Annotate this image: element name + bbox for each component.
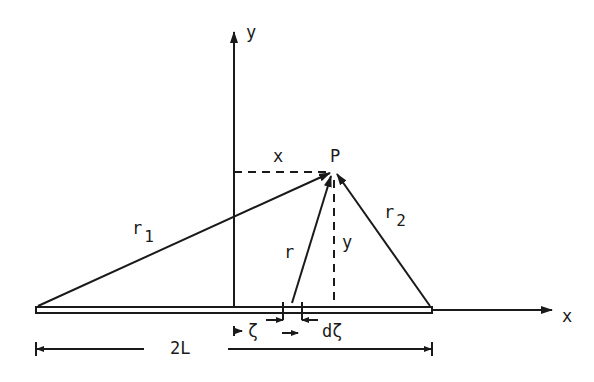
x-axis-label: x bbox=[562, 308, 572, 325]
x-coordinate-label: x bbox=[273, 148, 283, 165]
r1-vector bbox=[38, 173, 330, 306]
r2-label: r2 bbox=[384, 204, 406, 221]
zeta-label: ζ bbox=[248, 323, 258, 340]
r2-subscript: 2 bbox=[396, 211, 406, 230]
r1-label: r1 bbox=[132, 220, 154, 237]
r-vector bbox=[292, 176, 331, 303]
r1-base: r bbox=[132, 218, 142, 238]
r-label: r bbox=[284, 244, 294, 261]
line-source-rod bbox=[36, 307, 432, 313]
r2-base: r bbox=[384, 202, 394, 222]
y-coordinate-label: y bbox=[342, 234, 352, 251]
r1-subscript: 1 bbox=[144, 227, 154, 246]
dimension-2l-label: 2L bbox=[170, 340, 190, 357]
d-zeta-label: dζ bbox=[322, 323, 342, 340]
point-p-label: P bbox=[330, 148, 340, 165]
line-source-field-diagram bbox=[0, 0, 594, 382]
y-axis-label: y bbox=[246, 24, 256, 41]
